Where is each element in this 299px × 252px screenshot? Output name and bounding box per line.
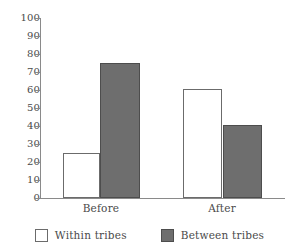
legend-entry-within-tribes[interactable]: Within tribes: [35, 229, 127, 242]
chart-legend: Within tribes Between tribes: [0, 224, 299, 246]
legend-swatch-gray-square-icon: [161, 229, 174, 242]
bar-before-between[interactable]: [100, 63, 140, 198]
bar-after-within[interactable]: [183, 89, 222, 198]
x-axis-line: [40, 198, 285, 199]
bar-chart-figure: 100 90 80 70 60 50 40 30: [0, 0, 299, 252]
legend-swatch-white-square-icon: [35, 229, 48, 242]
bar-before-within[interactable]: [63, 153, 100, 198]
plot-area: 100 90 80 70 60 50 40 30: [0, 0, 299, 206]
legend-label: Within tribes: [55, 229, 127, 241]
bar-after-between[interactable]: [223, 125, 262, 198]
legend-entry-between-tribes[interactable]: Between tribes: [161, 229, 264, 242]
legend-label: Between tribes: [181, 229, 264, 241]
bars-layer: [0, 0, 299, 198]
y-tick-mark: [34, 198, 40, 199]
x-group-label-before: Before: [71, 202, 131, 214]
x-group-label-after: After: [192, 202, 252, 214]
y-tick-0: 0: [0, 198, 40, 199]
